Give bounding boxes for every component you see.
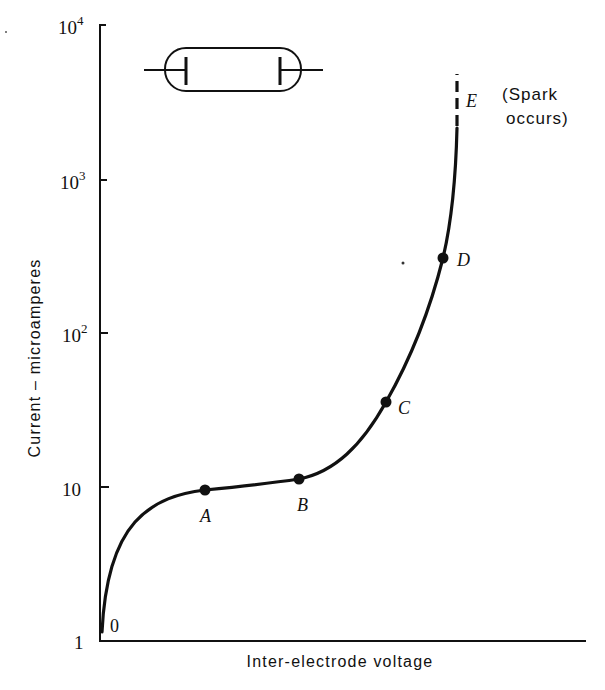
y-tick-label-100: 102 — [62, 321, 88, 346]
point-D — [438, 253, 449, 264]
y-tick-label-10000: 104 — [58, 13, 84, 38]
spark-annotation-line1: (Spark — [502, 85, 558, 104]
x-axis-title: Inter-electrode voltage — [247, 653, 434, 670]
discharge-tube-icon — [144, 48, 323, 91]
y-tick-label-10: 10 — [62, 479, 81, 500]
point-B — [294, 474, 305, 485]
y-tick-label-1: 1 — [74, 632, 84, 653]
speck — [402, 262, 405, 265]
point-C — [381, 397, 392, 408]
y-tick-label-1000: 103 — [60, 168, 86, 193]
speck — [5, 31, 7, 33]
label-E: E — [465, 91, 477, 111]
chart: 104 103 102 10 1 Current – microamperes … — [0, 0, 605, 690]
current-curve — [102, 128, 457, 632]
y-axis-title: Current – microamperes — [26, 259, 43, 458]
point-A — [200, 485, 211, 496]
label-A: A — [199, 506, 212, 526]
label-D: D — [456, 250, 470, 270]
label-C: C — [398, 398, 411, 418]
label-B: B — [297, 495, 308, 515]
label-origin: 0 — [110, 616, 119, 636]
spark-annotation-line2: occurs) — [506, 109, 569, 128]
